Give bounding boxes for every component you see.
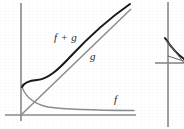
- figure-container: f + g g f: [0, 0, 184, 129]
- label-f: f: [114, 94, 117, 105]
- label-g: g: [90, 51, 96, 62]
- math-figure-canvas: [0, 0, 184, 129]
- secondary-figure: [155, 2, 184, 127]
- label-f-plus-g: f + g: [54, 32, 77, 43]
- curve-f-plus-g: [22, 4, 130, 87]
